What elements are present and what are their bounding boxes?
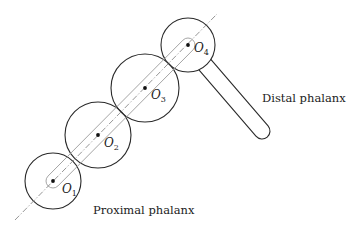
joint-center-o4 — [186, 43, 190, 47]
joint-center-o1 — [51, 179, 55, 183]
joint-label-o2: O2 — [104, 136, 119, 152]
proximal-phalanx-label: Proximal phalanx — [93, 203, 195, 217]
joint-center-o2 — [96, 133, 100, 137]
joint-center-o3 — [143, 86, 147, 90]
finger-kinematic-diagram: O1O2O3O4 Proximal phalanx Distal phalanx — [0, 0, 354, 235]
joint-label-o4: O4 — [194, 41, 209, 57]
joint-label-o1: O1 — [62, 182, 77, 198]
distal-phalanx-label: Distal phalanx — [262, 91, 346, 105]
joint-labels: O1O2O3O4 — [62, 41, 209, 198]
joint-label-o3: O3 — [151, 88, 166, 104]
